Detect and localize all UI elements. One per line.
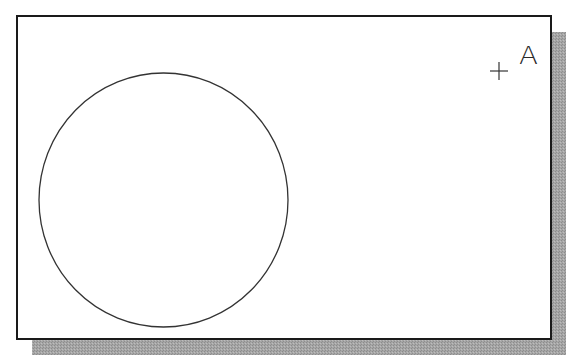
point-label: A: [519, 41, 538, 70]
drawing-canvas: A: [0, 0, 573, 361]
drawing-frame: [17, 16, 551, 339]
